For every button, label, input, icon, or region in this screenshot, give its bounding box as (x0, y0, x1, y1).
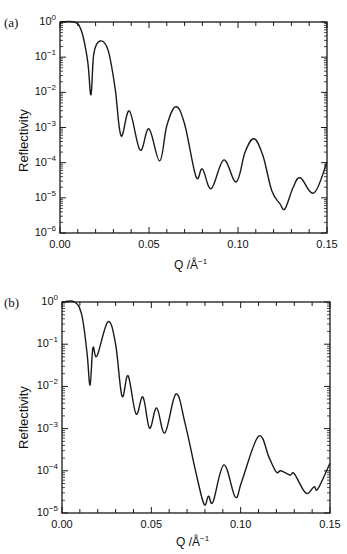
reflectivity-curve (62, 301, 330, 505)
y-tick-label: 10−1 (24, 335, 58, 349)
x-tick-label: 0.05 (129, 238, 169, 250)
x-tick-label: 0.00 (40, 238, 80, 250)
axes-frame (62, 302, 330, 513)
y-tick-label: 100 (22, 13, 56, 27)
y-tick-label: 10−5 (22, 189, 56, 203)
panel-label-b: (b) (4, 295, 19, 311)
y-tick-label: 10−1 (22, 48, 56, 62)
panel-label-a: (a) (4, 15, 18, 31)
chart-panel-a: (a) 10010−110−210−310−410−510−6 0.000.05… (0, 0, 347, 277)
x-axis-label-exp-b: −1 (200, 534, 209, 543)
y-axis-label-a: Reflectivity (16, 109, 31, 172)
x-tick-label: 0.10 (218, 238, 258, 250)
x-axis-label-exp-a: −1 (198, 257, 207, 266)
x-axis-label-b: Q /Å−1 (176, 534, 209, 549)
chart-panel-b: (b) 10010−110−210−310−410−5 0.000.050.10… (0, 277, 347, 554)
x-tick-label: 0.10 (221, 518, 261, 530)
y-tick-label: 10−2 (22, 83, 56, 97)
x-tick-label: 0.00 (42, 518, 82, 530)
y-tick-label: 10−5 (24, 504, 58, 518)
y-tick-label: 10−4 (24, 462, 58, 476)
reflectivity-curve (60, 21, 327, 209)
axes-frame (60, 22, 327, 233)
y-tick-label: 10−6 (22, 224, 56, 238)
x-tick-label: 0.05 (131, 518, 171, 530)
x-axis-label-a: Q /Å−1 (174, 257, 207, 272)
x-tick-label: 0.15 (310, 518, 347, 530)
y-tick-label: 100 (24, 293, 58, 307)
y-axis-label-b: Reflectivity (16, 386, 31, 449)
x-axis-label-text-a: Q /Å (174, 258, 198, 272)
x-axis-label-text-b: Q /Å (176, 535, 200, 549)
x-tick-label: 0.15 (307, 238, 347, 250)
